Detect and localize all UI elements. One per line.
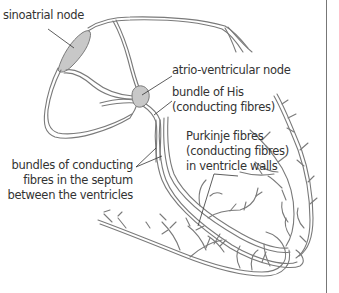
leader-bundle-his <box>154 101 172 115</box>
label-bundle-of-his: bundle of His (conducting fibres) <box>172 85 275 115</box>
label-line: (conducting fibres) <box>172 100 275 115</box>
label-line: in ventricle walls <box>186 159 289 174</box>
label-line: sinoatrial node <box>3 8 84 23</box>
atrial-pathway-top <box>88 17 252 52</box>
label-line: fibres in the septum <box>8 173 134 188</box>
internodal-pathway-middle <box>64 70 135 106</box>
purkinje-right-wall <box>274 94 317 258</box>
sinoatrial-node <box>58 31 91 72</box>
label-line: bundle of His <box>172 85 275 100</box>
label-septum-bundles: bundles of conducting fibres in the sept… <box>8 158 134 203</box>
bundle-of-his <box>143 104 161 162</box>
frame-border-right <box>326 0 327 293</box>
label-purkinje-fibres: Purkinje fibres (conducting fibres) in v… <box>186 129 289 174</box>
internodal-pathway-right <box>113 20 140 90</box>
label-sinoatrial-node: sinoatrial node <box>3 8 84 23</box>
label-atrio-ventricular-node: atrio-ventricular node <box>172 63 291 78</box>
heart-conduction-diagram: sinoatrial node atrio-ventricular node b… <box>0 0 339 293</box>
leader-septum-1 <box>136 148 156 167</box>
label-line: (conducting fibres) <box>186 144 289 159</box>
label-line: bundles of conducting <box>8 158 134 173</box>
leader-sinoatrial <box>48 29 74 48</box>
label-line: Purkinje fibres <box>186 129 289 144</box>
label-line: between the ventricles <box>8 188 134 203</box>
leader-av-node <box>142 76 172 95</box>
label-line: atrio-ventricular node <box>172 63 291 78</box>
